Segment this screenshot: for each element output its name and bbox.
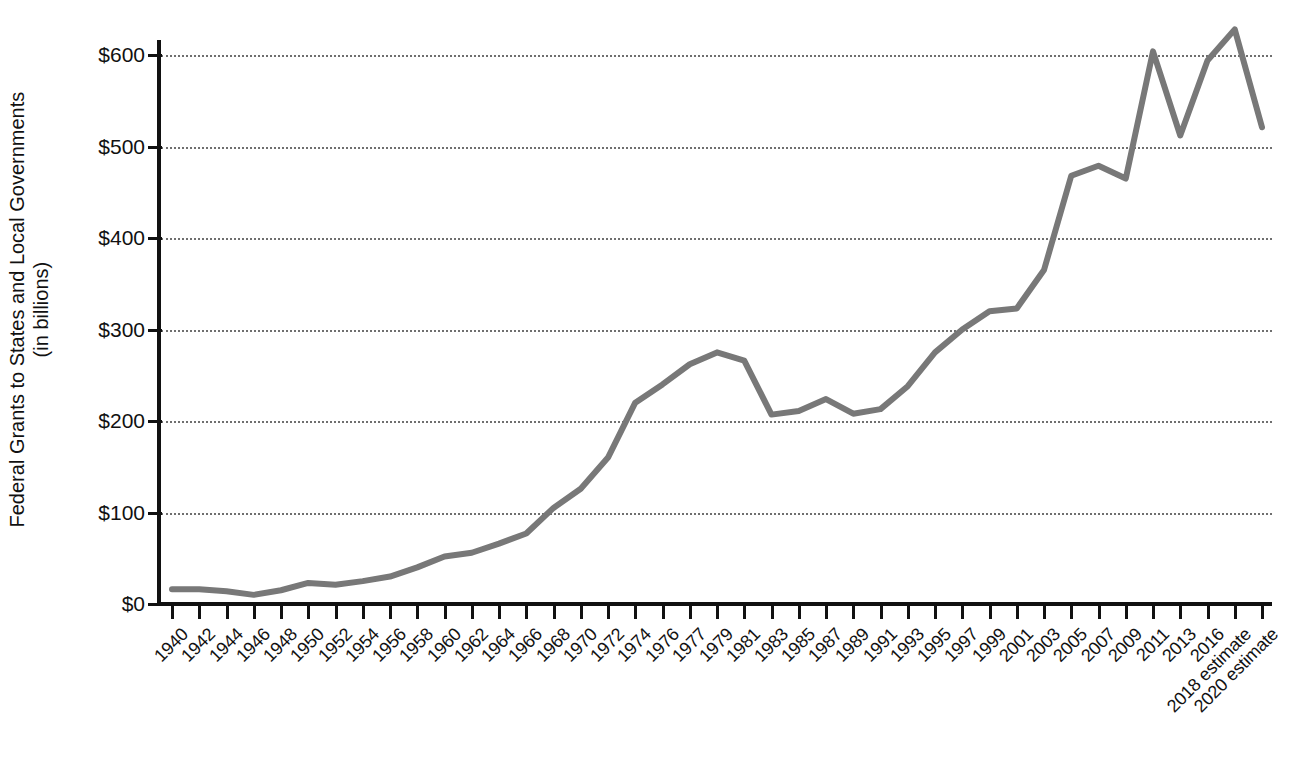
x-axis-tick-mark [253,606,256,619]
y-axis-tick-label: $0 [45,592,145,616]
gridline [161,238,1272,240]
x-axis-tick-mark [1070,606,1073,619]
x-axis-tick-mark [1016,606,1019,619]
x-axis-tick-mark [607,606,610,619]
y-axis-tick-mark [148,146,162,149]
x-axis-tick-mark [226,606,229,619]
y-axis-tick-label: $600 [45,43,145,67]
y-axis-tick-label: $500 [45,135,145,159]
x-axis-tick-mark [198,606,201,619]
plot-area [161,55,1272,604]
x-axis-tick-mark [171,606,174,619]
x-axis-tick-mark [553,606,556,619]
x-axis-tick-mark [280,606,283,619]
x-axis-tick-mark [498,606,501,619]
x-axis-tick-mark [444,606,447,619]
x-axis-tick-mark [416,606,419,619]
gridline [161,330,1272,332]
x-axis-tick-mark [743,606,746,619]
x-axis-tick-mark [1234,606,1237,619]
y-axis-tick-label: $400 [45,226,145,250]
x-axis-tick-mark [1098,606,1101,619]
x-axis-tick-mark [825,606,828,619]
x-axis-tick-mark [1261,606,1264,619]
x-axis-tick-mark [362,606,365,619]
gridline [161,147,1272,149]
y-axis-tick-labels: $0$100$200$300$400$500$600 [0,0,145,765]
x-axis-tick-mark [907,606,910,619]
line-chart: Federal Grants to States and Local Gover… [0,0,1312,765]
x-axis-tick-mark [1152,606,1155,619]
x-axis-tick-mark [1179,606,1182,619]
x-axis-tick-mark [471,606,474,619]
x-axis-tick-mark [1207,606,1210,619]
gridline [161,55,1272,57]
y-axis-tick-mark [148,237,162,240]
x-axis-tick-mark [634,606,637,619]
x-axis-tick-mark [1043,606,1046,619]
x-axis-tick-mark [880,606,883,619]
y-axis-tick-mark [148,512,162,515]
x-axis-tick-mark [961,606,964,619]
x-axis-tick-mark [989,606,992,619]
x-axis-tick-mark [580,606,583,619]
x-axis-tick-mark [389,606,392,619]
x-axis-tick-mark [716,606,719,619]
x-axis-tick-mark [689,606,692,619]
x-axis-tick-mark [307,606,310,619]
gridline [161,513,1272,515]
x-axis-tick-mark [771,606,774,619]
y-axis-tick-label: $300 [45,318,145,342]
x-axis-tick-mark [662,606,665,619]
y-axis-tick-label: $200 [45,409,145,433]
x-axis-tick-mark [934,606,937,619]
x-axis-tick-mark [852,606,855,619]
x-axis-tick-mark [1125,606,1128,619]
y-axis-tick-mark [148,603,162,606]
x-axis-tick-mark [335,606,338,619]
gridline [161,421,1272,423]
x-axis-tick-mark [798,606,801,619]
y-axis-tick-label: $100 [45,501,145,525]
x-axis-tick-mark [525,606,528,619]
y-axis-tick-mark [148,329,162,332]
y-axis-tick-mark [148,420,162,423]
y-axis-tick-mark [148,54,162,57]
